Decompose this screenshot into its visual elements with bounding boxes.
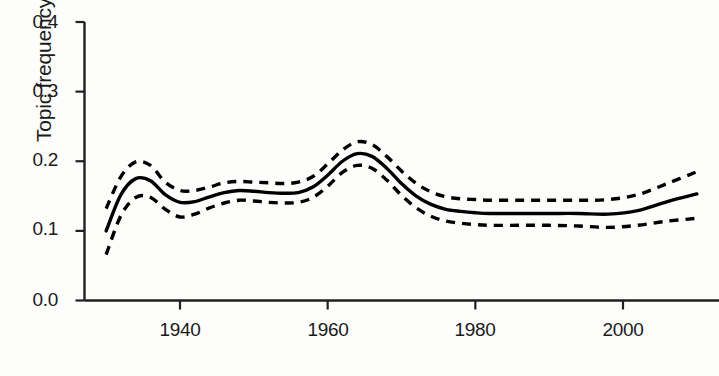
estimate-line [106,153,697,231]
lower-bound-line [106,165,697,254]
chart-figure: Topic frequency 0.4 0.3 0.2 0.1 0.0 1940… [0,0,719,376]
upper-bound-line [106,141,697,208]
chart-plot-area [0,0,719,376]
series-group [106,141,697,254]
axes [76,22,719,310]
